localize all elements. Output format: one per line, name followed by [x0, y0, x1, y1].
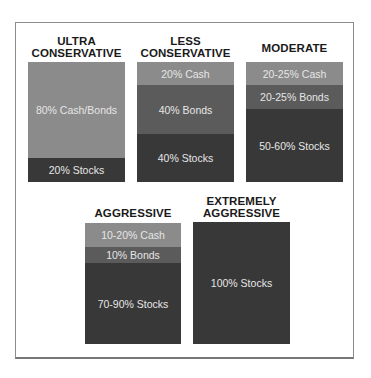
segment-cash-bonds: 80% Cash/Bonds	[28, 62, 125, 158]
title-ultra-conservative: ULTRA CONSERVATIVE	[28, 35, 125, 59]
title-less-conservative: LESS CONSERVATIVE	[132, 35, 239, 59]
title-line: LESS	[132, 35, 239, 47]
portfolio-box-moderate: 20-25% Cash 20-25% Bonds 50-60% Stocks	[246, 62, 343, 182]
title-moderate: MODERATE	[246, 42, 343, 54]
segment-stocks: 70-90% Stocks	[85, 263, 181, 344]
title-line: AGGRESSIVE	[80, 207, 186, 219]
portfolio-box-aggressive: 10-20% Cash 10% Bonds 70-90% Stocks	[85, 223, 181, 344]
segment-bonds: 20-25% Bonds	[246, 85, 343, 109]
title-aggressive: AGGRESSIVE	[80, 207, 186, 219]
segment-stocks: 20% Stocks	[28, 158, 125, 182]
title-line: MODERATE	[246, 42, 343, 54]
title-extremely-aggressive: EXTREMELY AGGRESSIVE	[190, 195, 293, 219]
segment-bonds: 40% Bonds	[137, 85, 234, 134]
title-line: ULTRA	[28, 35, 125, 47]
portfolio-box-less-conservative: 20% Cash 40% Bonds 40% Stocks	[137, 62, 234, 182]
segment-cash: 20% Cash	[137, 62, 234, 85]
portfolio-box-extremely-aggressive: 100% Stocks	[193, 222, 290, 344]
title-line: EXTREMELY	[190, 195, 293, 207]
segment-cash: 20-25% Cash	[246, 62, 343, 85]
title-line: CONSERVATIVE	[132, 47, 239, 59]
segment-stocks: 50-60% Stocks	[246, 109, 343, 182]
segment-cash: 10-20% Cash	[85, 223, 181, 247]
title-line: CONSERVATIVE	[28, 47, 125, 59]
portfolio-box-ultra-conservative: 80% Cash/Bonds 20% Stocks	[28, 62, 125, 182]
title-line: AGGRESSIVE	[190, 207, 293, 219]
segment-bonds: 10% Bonds	[85, 247, 181, 263]
segment-stocks: 40% Stocks	[137, 134, 234, 182]
segment-stocks: 100% Stocks	[193, 222, 290, 344]
